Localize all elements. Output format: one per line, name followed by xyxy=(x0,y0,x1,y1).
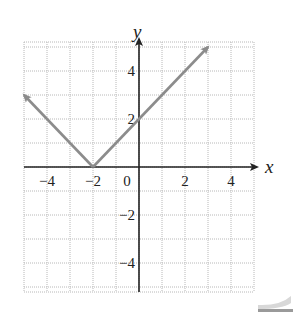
x-axis-label: x xyxy=(264,156,274,177)
axes xyxy=(24,39,257,292)
x-tick-label: 0 xyxy=(123,173,131,189)
x-tick-label: −2 xyxy=(85,173,101,189)
x-tick-label: 2 xyxy=(181,173,189,189)
y-tick-label: −4 xyxy=(119,255,135,271)
y-axis-label: y xyxy=(131,21,142,42)
x-tick-label: −4 xyxy=(39,173,55,189)
graph: −4−202442−2−4 x y xyxy=(0,0,293,320)
x-tick-label: 4 xyxy=(227,173,235,189)
y-tick-label: −2 xyxy=(119,207,135,223)
y-tick-label: 4 xyxy=(128,63,136,79)
page-curl-decoration xyxy=(258,296,293,312)
curve-segment xyxy=(93,47,208,167)
curve-segment xyxy=(24,95,93,167)
